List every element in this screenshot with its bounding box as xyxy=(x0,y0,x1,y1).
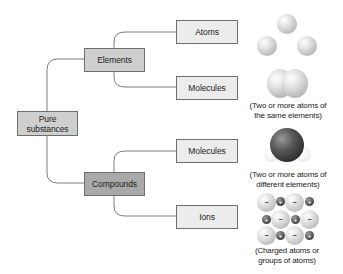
atom-sphere-icon xyxy=(297,36,317,56)
compounds-box: Compounds xyxy=(84,172,145,196)
cation-icon: + xyxy=(276,231,285,240)
anion-icon: − xyxy=(300,210,319,229)
pure-substances-label-line2: substances xyxy=(27,124,69,134)
atoms-box: Atoms xyxy=(176,20,238,44)
atoms-illustration xyxy=(255,14,321,58)
cation-icon: + xyxy=(305,231,314,240)
connector-root-elements xyxy=(47,59,84,111)
cation-icon: + xyxy=(305,197,314,206)
connector-elements-molecules xyxy=(114,71,176,87)
atom-sphere-icon xyxy=(257,36,277,56)
pure-substances-label-line1: Pure xyxy=(39,114,57,124)
atom-sphere-icon xyxy=(282,69,308,98)
ions-caption: (Charged atoms or groups of atoms) xyxy=(244,246,330,266)
cation-icon: + xyxy=(262,215,271,224)
pure-substances-box: Pure substances xyxy=(17,111,78,136)
atom-sphere-icon xyxy=(277,14,297,34)
compounds-label: Compounds xyxy=(92,179,137,189)
ions-label: Ions xyxy=(199,212,215,222)
ions-box: Ions xyxy=(176,205,238,229)
elements-label: Elements xyxy=(97,55,132,65)
element-molecules-box: Molecules xyxy=(176,76,238,100)
compound-molecule-illustration xyxy=(262,128,314,164)
pure-substances-classification-diagram: Pure substances Elements Compounds Atoms… xyxy=(0,0,343,274)
anion-icon: − xyxy=(257,193,276,212)
anion-icon: − xyxy=(285,193,304,212)
connector-elements-atoms xyxy=(114,32,176,48)
atoms-label: Atoms xyxy=(195,27,219,37)
connector-compounds-ions xyxy=(114,195,176,216)
oxygen-atom-icon xyxy=(270,128,304,162)
element-molecules-label: Molecules xyxy=(188,83,225,93)
caption-line: (Charged atoms or xyxy=(244,246,330,256)
compound-molecules-box: Molecules xyxy=(176,139,238,163)
anion-icon: − xyxy=(257,226,276,245)
anion-icon: − xyxy=(271,210,290,229)
caption-line: groups of atoms) xyxy=(244,256,330,266)
element-molecules-caption: (Two or more atoms of the same elements) xyxy=(245,101,331,121)
caption-line: the same elements) xyxy=(245,111,331,121)
caption-line: different elements) xyxy=(245,180,331,190)
cation-icon: + xyxy=(291,215,300,224)
ionic-lattice-illustration: − + − + + − + − − + − + xyxy=(256,193,322,245)
connector-compounds-molecules xyxy=(114,151,176,172)
elements-box: Elements xyxy=(84,48,145,72)
compound-molecules-label: Molecules xyxy=(188,146,225,156)
diatomic-molecule-illustration xyxy=(267,69,309,99)
caption-line: (Two or more atoms of xyxy=(245,170,331,180)
caption-line: (Two or more atoms of xyxy=(245,101,331,111)
anion-icon: − xyxy=(285,226,304,245)
cation-icon: + xyxy=(276,197,285,206)
connector-root-compounds xyxy=(47,135,84,183)
compound-molecules-caption: (Two or more atoms of different elements… xyxy=(245,170,331,190)
